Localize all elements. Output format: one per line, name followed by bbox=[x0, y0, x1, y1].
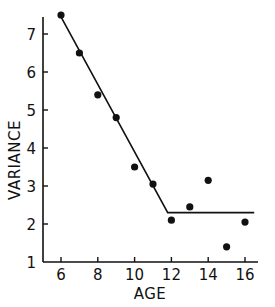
fitted-line bbox=[61, 17, 254, 213]
y-tick-label: 3 bbox=[26, 178, 36, 196]
y-tick-label: 4 bbox=[26, 140, 36, 158]
data-point bbox=[241, 219, 248, 226]
chart: 1234567 6810121416 AGE VARIANCE bbox=[0, 0, 275, 307]
y-tick-label: 2 bbox=[26, 216, 36, 234]
data-point bbox=[205, 177, 212, 184]
x-tick-label: 10 bbox=[125, 266, 144, 284]
data-point bbox=[113, 114, 120, 121]
y-tick-label: 5 bbox=[26, 102, 36, 120]
axes bbox=[43, 17, 258, 262]
data-points bbox=[57, 11, 248, 250]
y-axis-title: VARIANCE bbox=[6, 120, 24, 200]
x-ticks: 6810121416 bbox=[56, 257, 254, 284]
x-tick-label: 6 bbox=[56, 266, 66, 284]
data-point bbox=[186, 203, 193, 210]
data-point bbox=[223, 243, 230, 250]
data-point bbox=[57, 11, 64, 18]
y-tick-label: 7 bbox=[26, 26, 36, 44]
data-point bbox=[149, 181, 156, 188]
x-tick-label: 8 bbox=[93, 266, 103, 284]
data-point bbox=[76, 49, 83, 56]
y-ticks: 1234567 bbox=[26, 26, 48, 272]
data-point bbox=[94, 91, 101, 98]
data-point bbox=[131, 163, 138, 170]
x-tick-label: 12 bbox=[162, 266, 181, 284]
data-point bbox=[168, 217, 175, 224]
y-tick-label: 1 bbox=[26, 254, 36, 272]
y-tick-label: 6 bbox=[26, 64, 36, 82]
x-tick-label: 14 bbox=[199, 266, 218, 284]
x-tick-label: 16 bbox=[235, 266, 254, 284]
x-axis-title: AGE bbox=[134, 285, 167, 303]
fit-line bbox=[61, 17, 254, 213]
